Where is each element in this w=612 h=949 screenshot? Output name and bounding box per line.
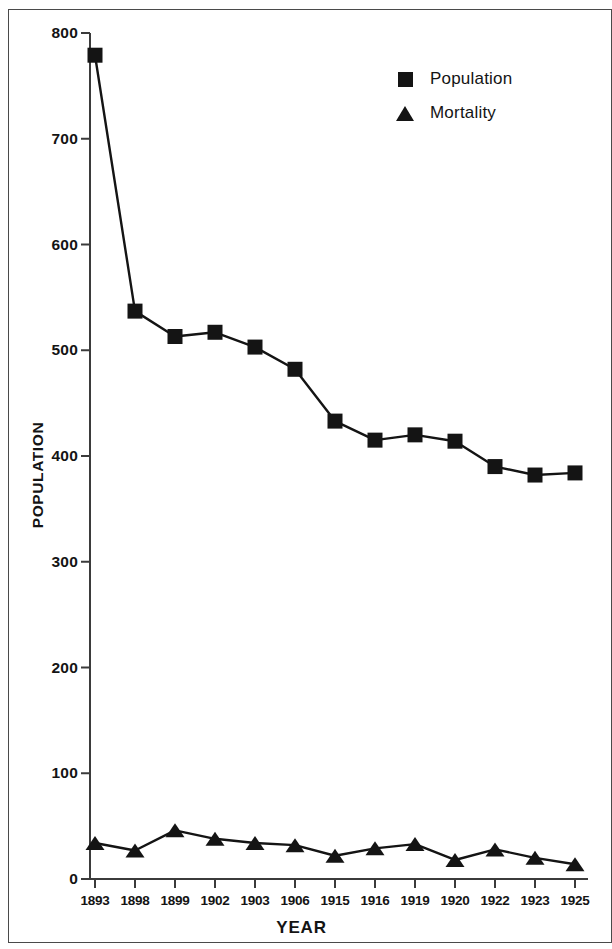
series-lines — [95, 55, 575, 864]
data-point-square — [448, 434, 463, 449]
data-point-triangle — [126, 843, 145, 857]
data-point-triangle — [486, 842, 505, 856]
data-point-square — [328, 414, 343, 429]
data-point-square — [288, 362, 303, 377]
data-point-square — [208, 325, 223, 340]
legend-entry-mortality: Mortality — [392, 96, 512, 130]
data-point-square — [568, 465, 583, 480]
data-point-square — [368, 433, 383, 448]
y-axis-title: POPULATION — [29, 375, 47, 575]
x-axis-tick-label: 1903 — [240, 893, 269, 908]
x-axis-title: YEAR — [0, 918, 603, 938]
x-axis-tick-label: 1906 — [280, 893, 309, 908]
data-point-square — [88, 48, 103, 63]
x-axis-tick-label: 1915 — [320, 893, 349, 908]
data-point-triangle — [326, 849, 345, 863]
data-point-square — [248, 340, 263, 355]
y-axis-tick-label: 700 — [14, 130, 78, 148]
y-axis-tick-label: 0 — [14, 870, 78, 888]
data-point-square — [488, 459, 503, 474]
legend-entry-population: Population — [392, 62, 512, 96]
filled-triangle-marker-icon — [392, 106, 418, 121]
x-axis-ticks — [95, 879, 575, 888]
data-point-square — [168, 329, 183, 344]
x-axis-tick-label: 1923 — [520, 893, 549, 908]
data-point-square — [528, 468, 543, 483]
x-axis-tick-label: 1922 — [480, 893, 509, 908]
data-point-triangle — [86, 836, 105, 850]
data-point-square — [128, 304, 143, 319]
data-point-triangle — [446, 853, 465, 867]
x-axis-tick-label: 1899 — [160, 893, 189, 908]
y-axis-tick-label: 200 — [14, 659, 78, 677]
x-axis-tick-label: 1893 — [80, 893, 109, 908]
y-axis-tick-label: 600 — [14, 236, 78, 254]
chart-legend: Population Mortality — [392, 62, 512, 130]
y-axis-tick-label: 100 — [14, 764, 78, 782]
x-axis-tick-label: 1916 — [360, 893, 389, 908]
filled-square-marker-icon — [392, 72, 418, 87]
y-axis-ticks — [81, 33, 90, 879]
x-axis-tick-label: 1925 — [560, 893, 589, 908]
y-axis-tick-label: 500 — [14, 341, 78, 359]
data-point-square — [408, 427, 423, 442]
legend-label-mortality: Mortality — [430, 103, 496, 123]
x-axis-tick-label: 1919 — [400, 893, 429, 908]
x-axis-tick-label: 1902 — [200, 893, 229, 908]
x-axis-tick-label: 1920 — [440, 893, 469, 908]
x-axis-tick-label: 1898 — [120, 893, 149, 908]
y-axis-tick-label: 800 — [14, 24, 78, 42]
data-point-triangle — [166, 823, 185, 837]
legend-label-population: Population — [430, 69, 512, 89]
series-markers — [86, 48, 585, 871]
